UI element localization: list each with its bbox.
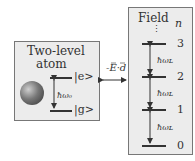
arrows-layer xyxy=(0,0,195,161)
